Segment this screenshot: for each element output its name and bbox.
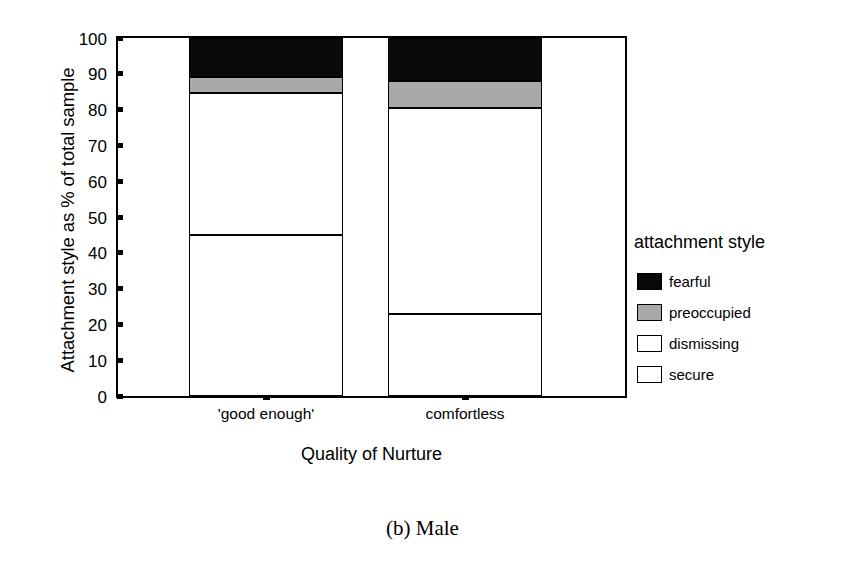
legend-label: fearful: [669, 273, 711, 290]
bar-segment-dismissing[interactable]: [388, 108, 542, 314]
y-tick-label: 20: [88, 316, 118, 333]
bar-good-enough[interactable]: 'good enough': [189, 38, 343, 396]
bar-segment-fearful[interactable]: [189, 38, 343, 77]
legend-swatch-fearful: [637, 273, 662, 290]
y-tick-mark: [117, 358, 123, 363]
legend-item-secure[interactable]: secure: [634, 359, 839, 390]
legend-item-fearful[interactable]: fearful: [634, 266, 839, 297]
y-tick-mark: [117, 215, 123, 220]
bar-comfortless[interactable]: comfortless: [388, 38, 542, 396]
plot-area: 100 90 80 70 60 50 40 30: [116, 36, 627, 398]
legend-swatch-dismissing: [637, 335, 662, 352]
bar-segment-dismissing[interactable]: [189, 93, 343, 234]
y-tick-label: 10: [88, 352, 118, 369]
y-tick-mark: [117, 286, 123, 291]
y-tick-label: 30: [88, 281, 118, 298]
y-tick-label: 80: [88, 102, 118, 119]
y-tick-mark: [117, 71, 123, 76]
bar-segment-fearful[interactable]: [388, 38, 542, 81]
y-tick-mark: [117, 36, 123, 41]
legend-swatch-preoccupied: [637, 304, 662, 321]
y-tick-label: 50: [88, 209, 118, 226]
x-tick-label-comfortless: comfortless: [425, 405, 504, 423]
x-axis-title: Quality of Nurture: [116, 444, 627, 465]
x-tick-label-good-enough: 'good enough': [218, 405, 314, 423]
y-tick-mark: [117, 322, 123, 327]
bar-segment-secure[interactable]: [388, 314, 542, 396]
legend-label: preoccupied: [669, 304, 751, 321]
bar-segment-preoccupied[interactable]: [189, 77, 343, 93]
y-axis-title: Attachment style as % of total sample: [57, 20, 79, 420]
legend-item-preoccupied[interactable]: preoccupied: [634, 297, 839, 328]
legend-label: secure: [669, 366, 714, 383]
x-tick-mark: [263, 395, 270, 400]
y-tick-label: 40: [88, 245, 118, 262]
y-tick-mark: [117, 394, 123, 399]
legend-title: attachment style: [634, 232, 839, 253]
bar-segment-secure[interactable]: [189, 235, 343, 396]
y-tick-mark: [117, 143, 123, 148]
y-tick-label: 70: [88, 137, 118, 154]
y-tick-label: 0: [98, 388, 118, 405]
y-tick-label: 90: [88, 66, 118, 83]
y-tick-mark: [117, 179, 123, 184]
x-tick-mark: [462, 395, 469, 400]
bar-segment-preoccupied[interactable]: [388, 81, 542, 108]
y-tick-label: 60: [88, 173, 118, 190]
figure-male-attachment-chart: Attachment style as % of total sample 10…: [0, 0, 845, 578]
legend: attachment style fearful preoccupied dis…: [634, 232, 839, 390]
legend-item-dismissing[interactable]: dismissing: [634, 328, 839, 359]
legend-swatch-secure: [637, 366, 662, 383]
legend-label: dismissing: [669, 335, 739, 352]
y-tick-label: 100: [79, 30, 118, 47]
figure-caption: (b) Male: [0, 516, 845, 541]
y-tick-mark: [117, 250, 123, 255]
y-tick-mark: [117, 107, 123, 112]
